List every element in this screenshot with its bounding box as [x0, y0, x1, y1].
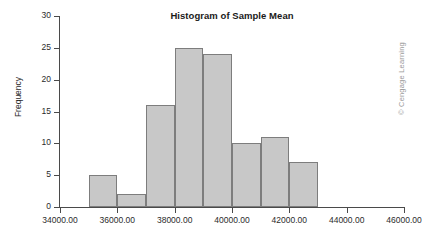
x-axis-tick — [232, 208, 233, 213]
y-axis-title: Frequency — [13, 47, 23, 147]
y-axis-tick-label: 20 — [20, 75, 51, 84]
x-axis-tick-label: 46000.00 — [369, 215, 439, 225]
y-axis-tick-label: 30 — [20, 11, 51, 20]
y-axis-tick — [54, 207, 59, 208]
y-axis-tick — [54, 112, 59, 113]
histogram-figure: Histogram of Sample Mean Frequency 05101… — [0, 0, 447, 241]
y-axis-tick — [54, 175, 59, 176]
plot-area — [60, 16, 404, 207]
histogram-bar — [232, 143, 261, 207]
y-axis-tick-label: 5 — [20, 170, 51, 179]
histogram-bar — [203, 54, 232, 207]
histogram-bar — [146, 105, 175, 207]
x-axis-tick — [404, 208, 405, 213]
y-axis-tick-label: 15 — [20, 107, 51, 116]
y-axis-tick — [54, 48, 59, 49]
histogram-bar — [89, 175, 118, 207]
x-axis-tick — [289, 208, 290, 213]
x-axis-tick — [60, 208, 61, 213]
x-axis-tick — [175, 208, 176, 213]
y-axis-tick — [54, 80, 59, 81]
y-axis-tick — [54, 143, 59, 144]
x-axis-tick — [117, 208, 118, 213]
x-axis-tick — [347, 208, 348, 213]
y-axis-tick-label: 10 — [20, 138, 51, 147]
copyright-watermark: © Cengage Learning — [397, 0, 406, 115]
histogram-bar — [117, 194, 146, 207]
y-axis-tick-label: 25 — [20, 43, 51, 52]
y-axis-tick — [54, 16, 59, 17]
histogram-bar — [261, 137, 290, 207]
y-axis-tick-label: 0 — [20, 202, 51, 211]
histogram-bar — [289, 162, 318, 207]
histogram-bar — [175, 48, 204, 207]
